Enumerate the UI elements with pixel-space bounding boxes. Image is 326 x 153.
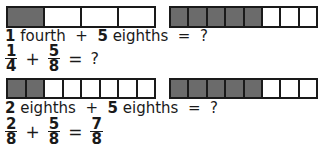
number: 5 [108,99,118,117]
equals-sign: = [178,27,191,45]
fraction-bar-eighths [169,78,318,99]
equals-sign: = [188,99,201,117]
unshaded-part [138,80,155,97]
shaded-part [171,80,189,97]
equals-sign: = [68,122,82,142]
shaded-part [8,8,45,26]
shaded-part [208,8,226,26]
fraction-equation-1: 1 4 + 5 8 = ? [5,44,99,73]
shaded-part [245,80,263,97]
unshaded-part [281,8,299,26]
unshaded-part [45,8,82,26]
denominator: 8 [6,132,16,146]
plus-sign: + [25,122,39,142]
word-problem-1: 1 fourth + 5 eighths = ? [5,28,208,44]
fraction-bar-fourths [6,6,156,28]
equals-sign: = [68,49,82,69]
unit-word: eighths [123,99,179,117]
unshaded-part [300,8,316,26]
answer: ? [90,49,99,68]
unshaded-part [263,8,281,26]
unit-word: eighths [113,27,169,45]
unshaded-part [82,8,119,26]
fraction-equation-2: 2 8 + 5 8 = 7 8 [5,117,103,146]
denominator: 8 [49,59,59,73]
unshaded-part [119,8,154,26]
unshaded-part [82,80,101,97]
shaded-part [226,8,244,26]
number: 5 [97,27,107,45]
unshaded-part [64,80,83,97]
denominator: 8 [91,132,101,146]
shaded-part [27,80,46,97]
unshaded-part [119,80,138,97]
answer-fraction: 7 8 [90,117,102,146]
shaded-part [189,80,207,97]
plus-sign: + [75,27,88,45]
shaded-part [208,80,226,97]
shaded-part [189,8,207,26]
fraction-bar-eighths [169,6,318,28]
word-problem-2: 2 eighths + 5 eighths = ? [5,100,218,116]
question-mark: ? [200,27,208,45]
fraction-b: 5 8 [48,117,60,146]
unshaded-part [263,80,281,97]
plus-sign: + [25,49,39,69]
denominator: 8 [49,132,59,146]
unshaded-part [281,80,299,97]
shaded-part [226,80,244,97]
fraction-bar-eighths [6,78,156,99]
shaded-part [245,8,263,26]
unshaded-part [45,80,64,97]
fraction-b: 5 8 [48,44,60,73]
fraction-a: 2 8 [5,117,17,146]
unshaded-part [300,80,316,97]
fraction-a: 1 4 [5,44,17,73]
shaded-part [171,8,189,26]
denominator: 4 [6,59,16,73]
question-mark: ? [210,99,218,117]
unshaded-part [101,80,120,97]
shaded-part [8,80,27,97]
